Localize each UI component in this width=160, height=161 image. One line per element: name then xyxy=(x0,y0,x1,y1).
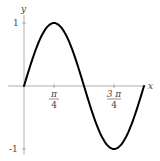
x-tick-label-pi4-num: π xyxy=(50,89,58,99)
y-tick-label-neg1: -1 xyxy=(9,144,18,154)
x-tick-label-3pi4-num: 3 π xyxy=(107,89,123,99)
x-axis-label: x xyxy=(148,81,153,91)
x-tick-label-pi4-den: 4 xyxy=(51,100,57,110)
y-axis-label: y xyxy=(20,4,27,14)
x-tick-label-3pi4-den: 4 xyxy=(111,100,117,110)
y-tick-label-1: 1 xyxy=(13,18,19,28)
plot-area: y x 1 -1 π 4 3 π 4 xyxy=(0,0,160,161)
chart: y x 1 -1 π 4 3 π 4 xyxy=(0,0,160,161)
